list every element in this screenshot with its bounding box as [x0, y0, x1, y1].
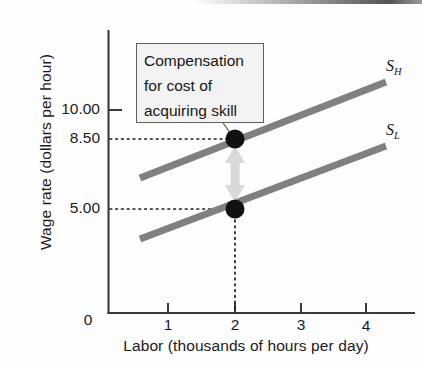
wage-gap-arrow	[225, 146, 245, 202]
curve-label-high-skill-sub: H	[394, 66, 402, 77]
compensation-callout-box: Compensation for cost of acquiring skill	[136, 43, 264, 123]
callout-line-1: Compensation	[144, 48, 257, 73]
x-axis-origin-label: 0	[78, 311, 98, 329]
curve-label-low-skill: SL	[386, 121, 400, 141]
y-axis-title: Wage rate (dollars per hour)	[37, 27, 55, 277]
curve-label-high-skill-base: S	[386, 57, 394, 74]
callout-line-2: for cost of	[144, 73, 257, 98]
x-tick-label-4: 4	[355, 317, 377, 335]
y-tick-label-10: 10.00	[28, 100, 100, 118]
x-tick-label-1: 1	[157, 316, 179, 334]
x-tick-label-3: 3	[290, 316, 312, 334]
callout-line-3: acquiring skill	[144, 98, 257, 123]
y-tick-label-8-50: 8.50	[28, 129, 100, 147]
high-skill-equilibrium-dot	[226, 130, 245, 149]
x-tick-label-2: 2	[224, 316, 246, 334]
curve-label-high-skill: SH	[386, 57, 402, 77]
curve-label-low-skill-sub: L	[394, 130, 400, 141]
curve-label-low-skill-base: S	[386, 121, 394, 138]
low-skill-equilibrium-dot	[226, 200, 245, 219]
wage-rate-chart-figure: Wage rate (dollars per hour) Labor (thou…	[0, 0, 422, 368]
x-axis-title: Labor (thousands of hours per day)	[86, 337, 406, 355]
y-tick-label-5-00: 5.00	[28, 199, 100, 217]
